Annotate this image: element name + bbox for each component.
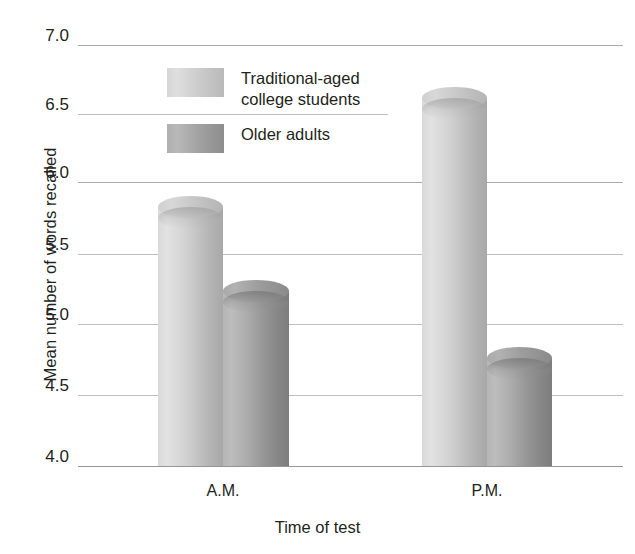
bar-body — [422, 98, 487, 466]
bar-am-traditional[interactable] — [158, 207, 223, 466]
y-tick-6-0: 6.0 — [45, 164, 69, 182]
gridline-6-0 — [78, 182, 623, 183]
bar-chart: Mean number of words recalled 7.0 6.5 6.… — [0, 0, 635, 554]
y-tick-5-5: 5.5 — [45, 236, 69, 254]
legend-item-older[interactable]: Older adults — [167, 124, 360, 153]
y-tick-5-0: 5.0 — [45, 306, 69, 324]
y-axis-title: Mean number of words recalled — [41, 65, 60, 465]
legend-label-older: Older adults — [241, 124, 330, 145]
bar-cap-shadow — [422, 98, 487, 120]
gridline-7-0 — [78, 45, 623, 46]
x-tick-am: A.M. — [158, 482, 288, 500]
legend-item-traditional[interactable]: Traditional-aged college students — [167, 68, 360, 110]
x-axis-title: Time of test — [0, 518, 635, 537]
legend-label-traditional: Traditional-aged college students — [241, 68, 360, 110]
y-tick-7-0: 7.0 — [45, 27, 69, 45]
bar-body — [158, 207, 223, 466]
bar-pm-older[interactable] — [487, 358, 552, 466]
y-tick-4-0: 4.0 — [45, 448, 69, 466]
legend-swatch-traditional-icon — [167, 68, 224, 97]
y-tick-6-5: 6.5 — [45, 96, 69, 114]
y-tick-4-5: 4.5 — [45, 377, 69, 395]
bar-am-older[interactable] — [223, 291, 289, 466]
bar-cap-shadow — [223, 291, 289, 313]
legend-swatch-older-icon — [167, 124, 224, 153]
bar-cap-shadow — [158, 207, 223, 229]
bar-pm-traditional[interactable] — [422, 98, 487, 466]
x-axis-line — [78, 466, 623, 467]
x-tick-pm: P.M. — [422, 482, 552, 500]
legend: Traditional-aged college students Older … — [167, 68, 360, 167]
bar-body — [223, 291, 289, 466]
bar-cap-shadow — [487, 358, 552, 380]
